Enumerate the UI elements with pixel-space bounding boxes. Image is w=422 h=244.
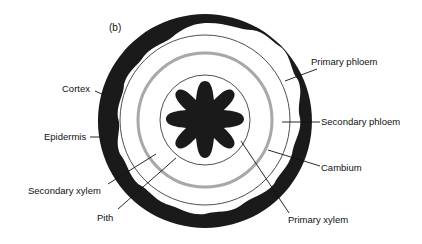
panel-label: (b) [109, 23, 121, 33]
label-cortex: Cortex [62, 84, 90, 94]
label-cambium: Cambium [321, 163, 362, 173]
label-secondary-xylem: Secondary xylem [28, 186, 101, 196]
label-epidermis: Epidermis [44, 132, 86, 142]
label-primary-xylem: Primary xylem [288, 215, 348, 225]
label-secondary-phloem: Secondary phloem [321, 117, 400, 127]
pith-star [166, 81, 244, 158]
label-pith: Pith [97, 213, 113, 223]
label-primary-phloem: Primary phloem [311, 57, 378, 67]
